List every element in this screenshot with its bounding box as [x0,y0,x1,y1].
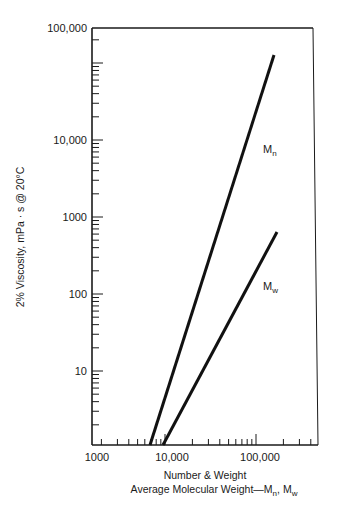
y-tick-100: 100 [69,288,87,300]
x-axis-title-line2: Average Molecular Weight—Mn, Mw [131,483,298,498]
series-line-mn [150,55,274,445]
x-tick-100000: 100,000 [240,451,280,463]
x-tick-10000: 10,000 [155,451,189,463]
y-tick-100000: 100,000 [47,22,87,34]
y-tick-10: 10 [75,365,87,377]
plot-frame [92,28,318,445]
y-tick-labels: 100,000 10,000 1000 100 10 [47,22,87,377]
y-axis-ticks [92,40,103,425]
x-axis-title-line1: Number & Weight [164,469,247,481]
x-tick-labels: 1000 10,000 100,000 [85,451,280,463]
x-axis-ticks [101,434,310,445]
series-label-mw: Mw [263,280,278,295]
viscosity-vs-molecular-weight-chart: 100,000 10,000 1000 100 10 1000 10,000 1… [0,0,338,519]
y-tick-10000: 10,000 [53,134,87,146]
y-tick-1000: 1000 [63,211,87,223]
x-tick-1000: 1000 [85,451,109,463]
x-axis-title: Number & Weight Average Molecular Weight… [131,469,298,498]
series-line-mw [163,232,277,445]
y-axis-title: 2% Viscosity, mPa · s @ 20°C [14,166,26,307]
series-label-mn: Mn [263,143,277,158]
